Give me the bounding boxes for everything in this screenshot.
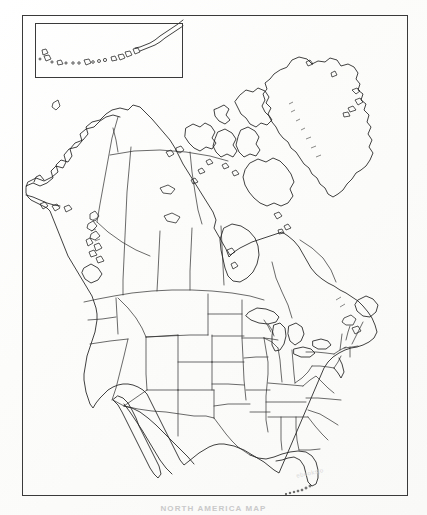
- map-caption: NORTH AMERICA MAP: [0, 504, 427, 515]
- aleutian-inset-frame: [35, 23, 183, 78]
- map-border-frame: [22, 15, 408, 496]
